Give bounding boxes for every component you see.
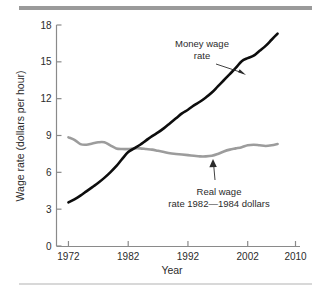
y-axis-tick-label: 3 — [46, 204, 52, 215]
line-chart: 0369121518 19721982199220022010 Year Wag… — [0, 0, 331, 299]
series-line-money-wage-rate — [68, 34, 277, 203]
x-axis-tick-label: 1992 — [177, 251, 200, 262]
x-axis-tick-labels: 19721982199220022010 — [57, 251, 307, 262]
real-wage-annotation-line2: rate 1982—1984 dollars — [168, 198, 270, 209]
series-line-real-wage-rate — [68, 137, 277, 156]
x-axis-tick-label: 2002 — [237, 251, 260, 262]
y-axis-tick-label: 12 — [40, 93, 52, 104]
y-axis-tick-label: 6 — [46, 167, 52, 178]
y-axis-tick-label: 15 — [40, 56, 52, 67]
axis-lines — [57, 25, 301, 247]
y-axis-ticks — [57, 25, 62, 246]
x-axis-ticks — [68, 241, 295, 246]
x-axis-tick-label: 2010 — [284, 251, 307, 262]
x-axis-tick-label: 1982 — [117, 251, 140, 262]
y-axis-tick-labels: 0369121518 — [40, 20, 52, 252]
real-wage-annotation: Real wage rate 1982—1984 dollars — [168, 159, 270, 209]
money-wage-annotation-line2: rate — [194, 50, 210, 61]
y-axis-tick-label: 0 — [46, 241, 52, 252]
money-wage-annotation-arrowhead — [238, 69, 246, 75]
y-axis-tick-label: 18 — [40, 20, 52, 31]
y-axis-tick-label: 9 — [46, 130, 52, 141]
money-wage-annotation-line1: Money wage — [175, 38, 229, 49]
x-axis-tick-label: 1972 — [57, 251, 80, 262]
real-wage-annotation-line1: Real wage — [197, 186, 242, 197]
x-axis-title: Year — [161, 264, 183, 276]
figure-container: 0369121518 19721982199220022010 Year Wag… — [0, 0, 331, 299]
y-axis-title: Wage rate (dollars per hour) — [14, 71, 26, 202]
real-wage-annotation-arrowhead — [209, 159, 217, 167]
